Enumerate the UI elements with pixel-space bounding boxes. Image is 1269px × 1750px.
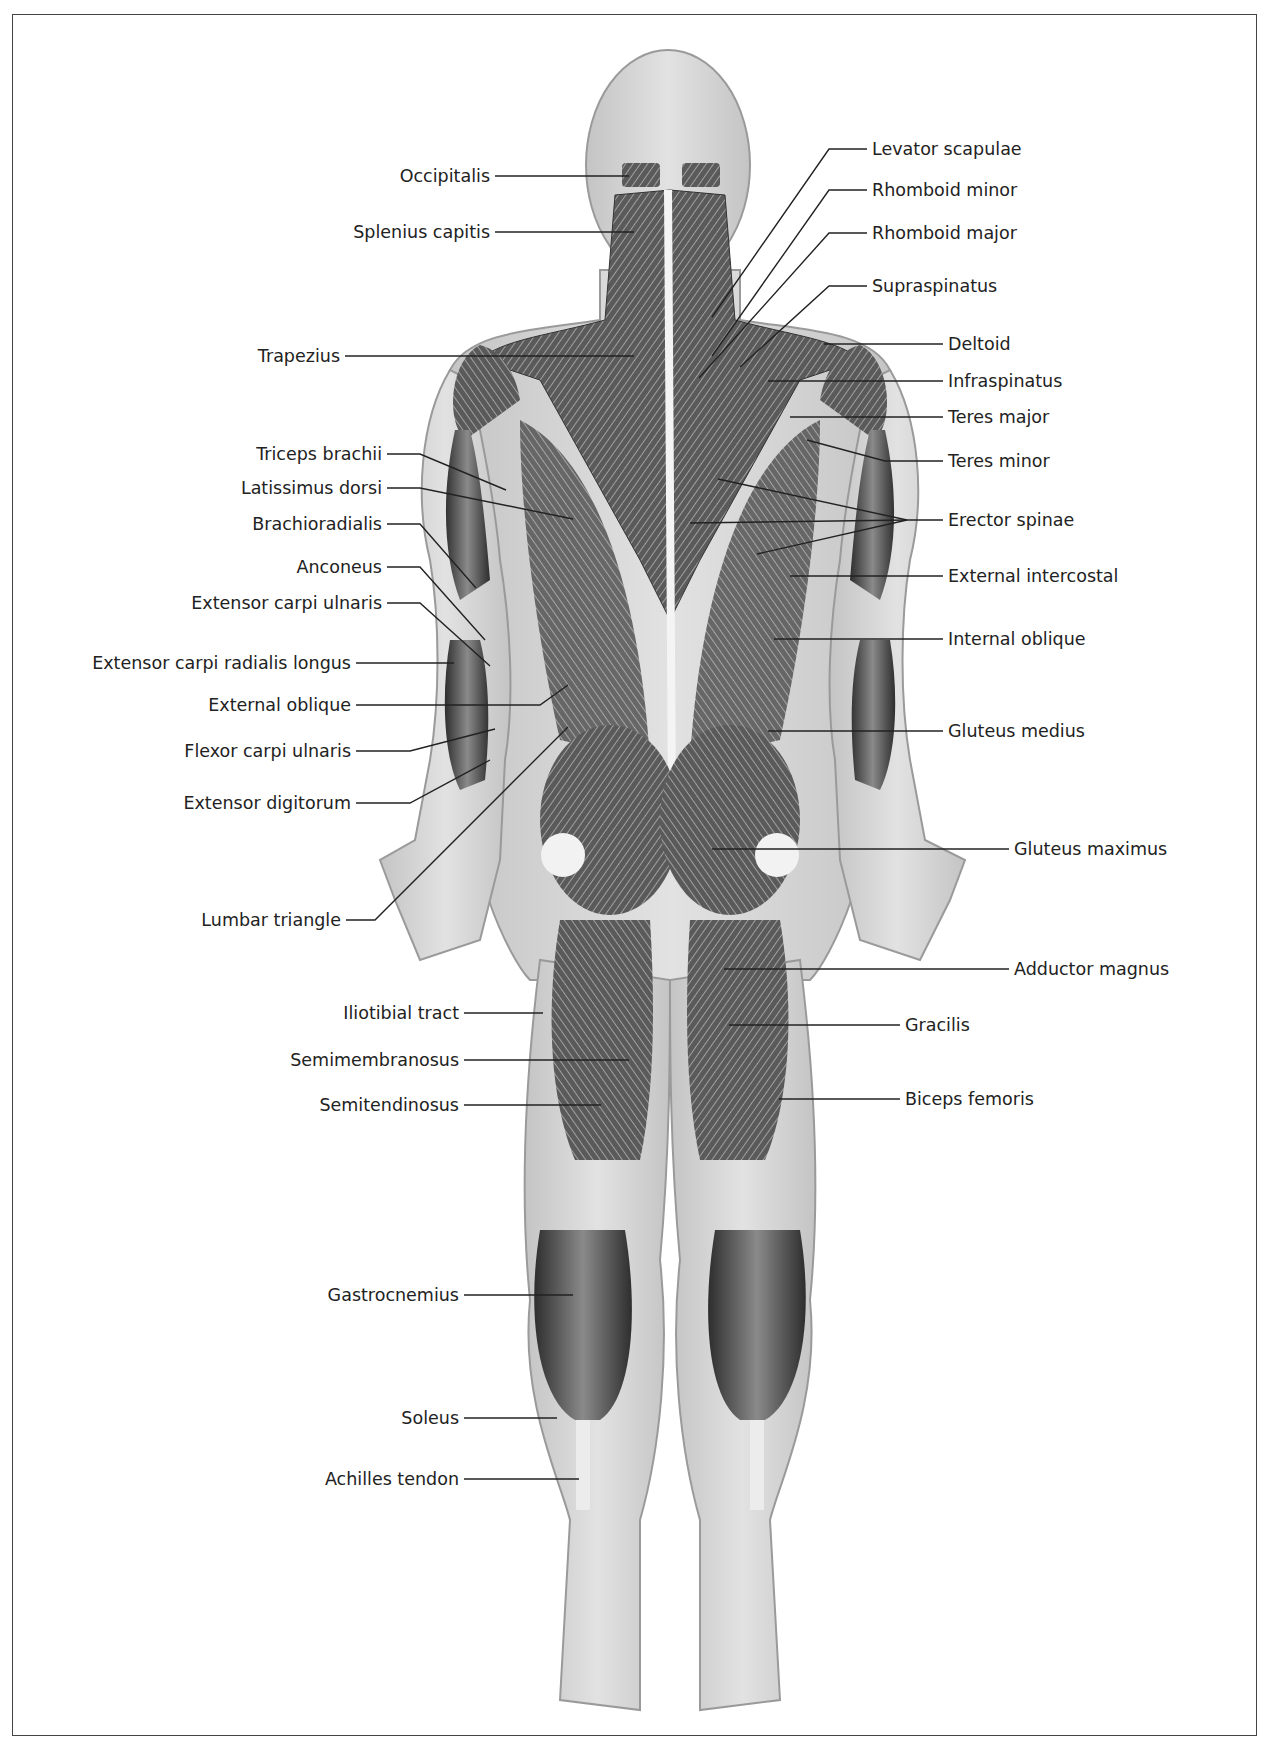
- label-teres-major: Teres major: [948, 407, 1049, 427]
- label-semitendinosus: Semitendinosus: [319, 1095, 459, 1115]
- hamstrings-left: [552, 920, 653, 1160]
- label-splenius-capitis: Splenius capitis: [353, 222, 490, 242]
- hip-light-left: [541, 833, 585, 877]
- label-gracilis: Gracilis: [905, 1015, 970, 1035]
- label-external-intercostal: External intercostal: [948, 566, 1118, 586]
- label-triceps-brachii: Triceps brachii: [256, 444, 382, 464]
- label-internal-oblique: Internal oblique: [948, 629, 1086, 649]
- label-extensor-carpi-ulnaris: Extensor carpi ulnaris: [191, 593, 382, 613]
- body-illustration: [0, 0, 1269, 1750]
- label-iliotibial-tract: Iliotibial tract: [343, 1003, 459, 1023]
- label-rhomboid-minor: Rhomboid minor: [872, 180, 1017, 200]
- gluteus-maximus-left: [540, 725, 680, 915]
- hip-light-right: [755, 833, 799, 877]
- occipitalis-left: [622, 163, 660, 187]
- label-lumbar-triangle: Lumbar triangle: [201, 910, 341, 930]
- label-achilles-tendon: Achilles tendon: [325, 1469, 459, 1489]
- label-gluteus-medius: Gluteus medius: [948, 721, 1085, 741]
- label-soleus: Soleus: [401, 1408, 459, 1428]
- label-rhomboid-major: Rhomboid major: [872, 223, 1017, 243]
- achilles-left: [576, 1420, 590, 1510]
- label-adductor-magnus: Adductor magnus: [1014, 959, 1169, 979]
- occipitalis-right: [682, 163, 720, 187]
- label-levator-scapulae: Levator scapulae: [872, 139, 1022, 159]
- label-trapezius: Trapezius: [258, 346, 340, 366]
- label-supraspinatus: Supraspinatus: [872, 276, 997, 296]
- label-occipitalis: Occipitalis: [400, 166, 490, 186]
- label-latissimus-dorsi: Latissimus dorsi: [241, 478, 382, 498]
- hamstrings-right: [687, 920, 788, 1160]
- label-biceps-femoris: Biceps femoris: [905, 1089, 1034, 1109]
- achilles-right: [750, 1420, 764, 1510]
- label-external-oblique: External oblique: [208, 695, 351, 715]
- spine-line: [668, 190, 672, 800]
- label-infraspinatus: Infraspinatus: [948, 371, 1062, 391]
- label-anconeus: Anconeus: [297, 557, 382, 577]
- label-extensor-digitorum: Extensor digitorum: [183, 793, 351, 813]
- label-teres-minor: Teres minor: [948, 451, 1050, 471]
- label-extensor-carpi-radialis-longus: Extensor carpi radialis longus: [92, 653, 351, 673]
- label-erector-spinae: Erector spinae: [948, 510, 1074, 530]
- label-brachioradialis: Brachioradialis: [252, 514, 382, 534]
- label-gastrocnemius: Gastrocnemius: [328, 1285, 459, 1305]
- gluteus-maximus-right: [660, 725, 800, 915]
- label-semimembranosus: Semimembranosus: [290, 1050, 459, 1070]
- label-gluteus-maximus: Gluteus maximus: [1014, 839, 1167, 859]
- label-flexor-carpi-ulnaris: Flexor carpi ulnaris: [184, 741, 351, 761]
- label-deltoid: Deltoid: [948, 334, 1011, 354]
